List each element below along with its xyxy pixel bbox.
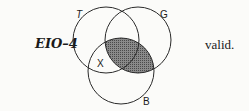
label-g: G bbox=[160, 9, 168, 20]
label-t: T bbox=[76, 9, 83, 20]
venn-figure: EIO–4 T G B X valid. bbox=[0, 0, 249, 111]
label-b: B bbox=[143, 96, 150, 107]
label-x: X bbox=[97, 58, 104, 69]
verdict-text: valid. bbox=[205, 37, 234, 53]
venn-diagram: T G B X bbox=[0, 0, 249, 111]
